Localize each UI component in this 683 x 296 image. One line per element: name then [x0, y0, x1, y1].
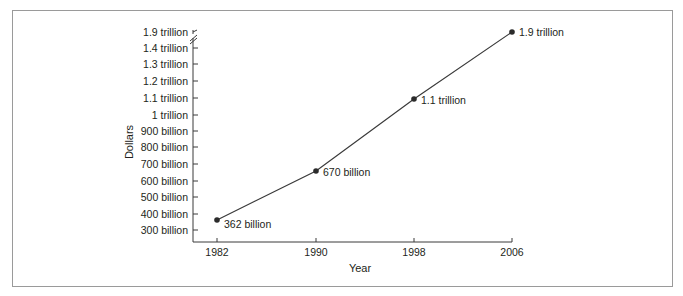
data-label-2006: 1.9 trillion [519, 26, 564, 38]
y-tick-label: 300 billion [141, 224, 188, 236]
y-tick-label: 700 billion [141, 158, 188, 170]
y-axis-top-tick [193, 30, 197, 32]
y-tick-label: 1.3 trillion [143, 58, 188, 70]
y-tick-label: 1.1 trillion [143, 92, 188, 104]
y-tick-label: 800 billion [141, 141, 188, 153]
data-point-1990 [313, 168, 319, 174]
data-point-1998 [411, 96, 417, 102]
y-axis-title: Dollars [123, 124, 135, 159]
data-point-2006 [509, 29, 515, 35]
y-tick-label: 1.9 trillion [143, 26, 188, 38]
y-tick-label: 400 billion [141, 208, 188, 220]
x-tick-label: 1990 [304, 246, 328, 258]
data-markers [214, 29, 515, 223]
x-axis-title: Year [349, 262, 372, 274]
x-tick-label: 1998 [402, 246, 426, 258]
x-tick-labels: 1982 1990 1998 2006 [205, 246, 524, 258]
y-tick-label: 1 trillion [152, 109, 188, 121]
data-label-1990: 670 billion [323, 166, 370, 178]
x-tick-label: 2006 [500, 246, 524, 258]
data-line [217, 32, 512, 220]
y-tick-label: 500 billion [141, 191, 188, 203]
y-tick-labels: 1.9 trillion 1.4 trillion 1.3 trillion 1… [141, 26, 188, 236]
data-label-1982: 362 billion [224, 218, 271, 230]
data-label-1998: 1.1 trillion [421, 94, 466, 106]
y-tick-label: 1.2 trillion [143, 75, 188, 87]
y-tick-label: 1.4 trillion [143, 42, 188, 54]
x-tick-label: 1982 [205, 246, 229, 258]
y-tick-label: 600 billion [141, 175, 188, 187]
y-ticks [193, 48, 198, 230]
data-point-1982 [214, 217, 220, 223]
x-ticks [217, 238, 512, 242]
y-tick-label: 900 billion [141, 125, 188, 137]
line-chart: 1.9 trillion 1.4 trillion 1.3 trillion 1… [0, 0, 683, 296]
